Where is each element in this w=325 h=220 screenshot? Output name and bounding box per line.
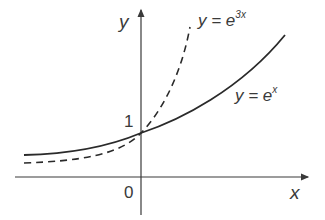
curve-label-e-x: y = ex: [235, 87, 277, 104]
curve-label-e-3x-text: y = e: [198, 11, 235, 30]
y-axis-label: y: [119, 12, 129, 31]
curve-label-e-3x: y = e3x: [198, 12, 246, 29]
x-axis-label: x: [290, 183, 300, 202]
y-intercept-label: 1: [124, 113, 133, 130]
origin-label: 0: [124, 184, 133, 201]
curve-label-e-x-exponent: x: [272, 84, 277, 95]
curve-e-3x: [24, 27, 190, 163]
graph-canvas: [0, 0, 325, 220]
curve-label-e-x-text: y = e: [235, 86, 272, 105]
curve-label-e-3x-exponent: 3x: [235, 9, 246, 20]
